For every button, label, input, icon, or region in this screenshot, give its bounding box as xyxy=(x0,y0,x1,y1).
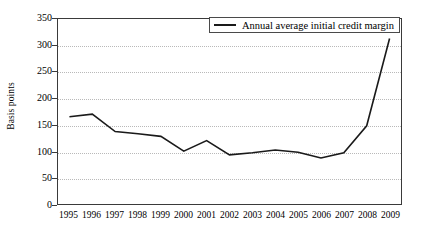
y-axis-tick-label: 350 xyxy=(20,13,52,23)
y-axis-title-text: Basis points xyxy=(6,82,16,129)
x-axis-tick-labels: 1995199619971998199920002001200220032004… xyxy=(57,209,402,225)
y-axis-title: Basis points xyxy=(2,0,20,212)
chart-legend: Annual average initial credit margin xyxy=(209,17,400,33)
y-axis-tick-label: 150 xyxy=(20,120,52,130)
y-axis-tick-label: 200 xyxy=(20,93,52,103)
y-axis-tick-label: 300 xyxy=(20,40,52,50)
series-line-annual-average-initial-credit-margin xyxy=(69,39,389,158)
plot-area xyxy=(57,18,402,205)
y-axis-tick-label: 100 xyxy=(20,147,52,157)
y-axis-tick-label: 50 xyxy=(20,173,52,183)
x-axis-tick-label: 2009 xyxy=(374,209,408,221)
line-chart: Basis points 050100150200250300350 Annua… xyxy=(0,0,432,245)
y-axis-tick-mark xyxy=(52,205,57,206)
legend-item-label: Annual average initial credit margin xyxy=(242,20,394,31)
y-axis-tick-label: 250 xyxy=(20,66,52,76)
y-axis-tick-label: 0 xyxy=(20,200,52,210)
legend-line-swatch xyxy=(214,24,236,26)
y-axis-tick-labels: 050100150200250300350 xyxy=(20,0,52,245)
data-series-layer xyxy=(58,19,401,204)
